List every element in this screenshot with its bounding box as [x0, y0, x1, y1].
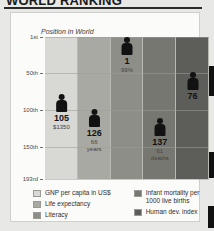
legend-column-right: Infant mortality per 1000 live birthsHum… [134, 189, 213, 231]
data-marker: 76 [186, 72, 200, 102]
plot-axis-caption: Position in World [41, 28, 94, 35]
data-marker: 12666years [87, 109, 102, 153]
legend-swatch [33, 201, 41, 208]
legend-label: Life expectancy [45, 200, 90, 208]
legend-label: GNP per capita in US$ [45, 189, 111, 197]
value-label: 61 [151, 148, 169, 155]
value-label: years [87, 146, 102, 153]
rank-value: 105 [53, 113, 70, 124]
rank-value: 137 [151, 137, 169, 148]
value-label: 99% [120, 67, 134, 74]
chart-legend: GNP per capita in US$Life expectancyLite… [33, 189, 213, 231]
person-icon [120, 37, 134, 55]
y-axis-tick [40, 179, 43, 180]
chart-figure: WORLD RANKING Position in World 1st50th1… [0, 0, 214, 231]
gridline [45, 179, 209, 180]
legend-swatch [33, 212, 41, 219]
y-axis-tick [40, 147, 43, 148]
rank-value: 126 [87, 128, 102, 139]
plot-area: 105$135012666years199%13761deaths76 [45, 37, 209, 179]
person-icon [54, 94, 68, 112]
chart-band [176, 37, 209, 179]
y-axis: 1st50th100th150th193rd [11, 37, 43, 179]
gridline [45, 147, 209, 148]
legend-label: Infant mortality per 1000 live births [146, 189, 213, 205]
y-axis-tick [40, 73, 43, 74]
y-axis-tick-label: 50th [26, 70, 38, 76]
y-axis-tick-label: 1st [30, 34, 38, 40]
y-axis-tick-label: 100th [23, 107, 38, 113]
chart-band [78, 37, 111, 179]
data-marker: 105$1350 [53, 94, 70, 131]
legend-item: Literacy [33, 211, 124, 219]
legend-label: Literacy [45, 211, 68, 219]
y-axis-tick-label: 193rd [23, 176, 38, 182]
data-marker: 199% [120, 37, 134, 74]
y-axis-tick [40, 37, 43, 38]
value-label: deaths [151, 155, 169, 162]
rank-value: 1 [120, 56, 134, 67]
legend-swatch [33, 190, 41, 197]
headline-divider [4, 7, 202, 9]
data-marker: 13761deaths [151, 118, 169, 162]
legend-item: Life expectancy [33, 200, 124, 208]
legend-label: Human dev. index [146, 208, 198, 216]
value-label: $1350 [53, 124, 70, 131]
y-axis-tick [40, 110, 43, 111]
chart-card: Position in World 1st50th100th150th193rd… [10, 12, 200, 222]
legend-item: Human dev. index [134, 208, 213, 216]
person-icon [87, 109, 101, 127]
legend-item: GNP per capita in US$ [33, 189, 124, 197]
y-axis-tick-label: 150th [23, 144, 38, 150]
person-icon [186, 72, 200, 90]
legend-swatch [134, 209, 142, 216]
legend-swatch [134, 190, 142, 197]
rank-value: 76 [186, 91, 200, 102]
legend-column-left: GNP per capita in US$Life expectancyLite… [33, 189, 124, 231]
person-icon [153, 118, 167, 136]
legend-item: Infant mortality per 1000 live births [134, 189, 213, 205]
value-label: 66 [87, 139, 102, 146]
